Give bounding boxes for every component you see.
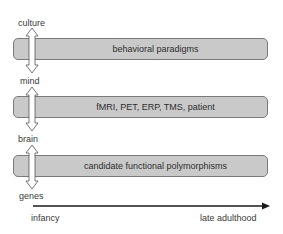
timeline-end-label: late adulthood: [200, 213, 257, 223]
double-arrow-icon: [26, 87, 38, 131]
double-arrow-icon: [26, 28, 38, 73]
timeline-start-label: infancy: [31, 213, 60, 223]
double-arrow-icon: [26, 145, 38, 189]
arrows-layer: [0, 0, 283, 234]
timeline-arrow-icon: [33, 203, 270, 210]
